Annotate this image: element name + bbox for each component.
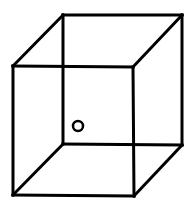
back-bottom-edge [63, 144, 182, 145]
front-top-edge [13, 66, 133, 67]
cube-svg [0, 0, 195, 209]
cube-diagram [0, 0, 195, 209]
front-bottom-edge [13, 195, 134, 196]
cube-edges [13, 15, 182, 196]
top-left-connector [13, 15, 63, 66]
top-right-connector [133, 15, 182, 67]
circle-marker [73, 121, 83, 131]
front-right-edge [133, 67, 134, 196]
bottom-right-connector [134, 145, 182, 196]
bottom-left-connector [13, 144, 63, 195]
